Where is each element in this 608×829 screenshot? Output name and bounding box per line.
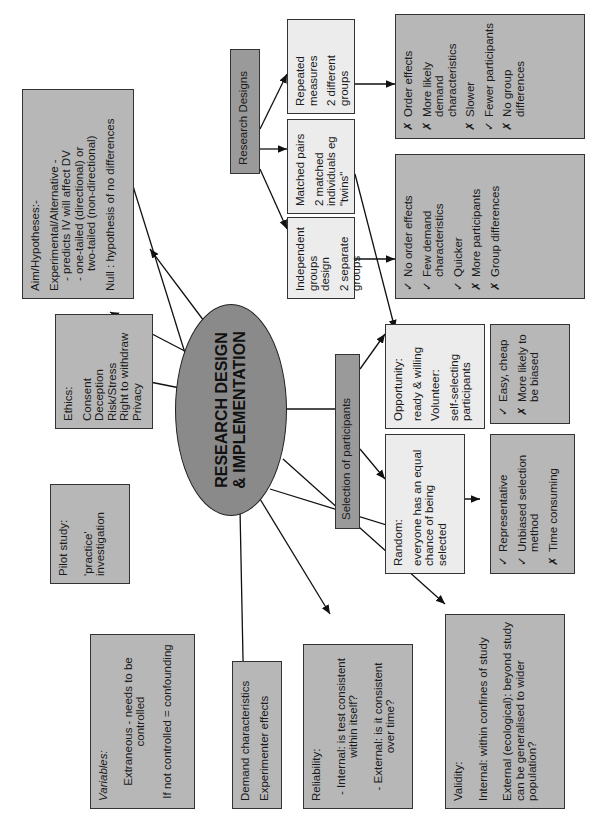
pilot-desc: 'practice' investigation <box>82 492 107 576</box>
eval-item: ✓No order effects <box>402 162 415 291</box>
variables-box: Variables: Extraneous - needs to be cont… <box>90 634 195 809</box>
matched-pairs-box: Matched pairs 2 matched individuals eg "… <box>287 119 355 214</box>
eval-text: Fewer participants <box>483 23 496 117</box>
random-label: Random: <box>392 442 405 566</box>
matched-title: Matched pairs <box>294 127 307 206</box>
pilot-study-box: Pilot study: 'practice' investigation <box>50 484 130 584</box>
check-icon: ✓ <box>402 277 415 291</box>
eval-item: ✓Quicker <box>452 162 465 291</box>
eval-text: More participants <box>470 189 483 277</box>
validity-external: External (ecological): beyond study can … <box>501 622 539 801</box>
eval-item: ✗Group differences <box>489 162 502 291</box>
check-icon: ✓ <box>497 402 510 416</box>
validity-title: Validity: <box>452 622 465 801</box>
cross-icon: ✗ <box>547 552 560 566</box>
cross-icon: ✗ <box>421 117 459 131</box>
cross-icon: ✗ <box>516 402 541 416</box>
aim-line3: two-tailed (non-directional) <box>85 97 98 291</box>
variables-confounding: If not controlled = confounding <box>161 642 174 801</box>
ethics-item: Deception <box>93 322 106 421</box>
random-box: Random: everyone has an equal chance of … <box>385 434 465 574</box>
reliability-external: - External: is it consistent over time? <box>372 652 397 801</box>
reliability-box: Reliability: - Internal: is test consist… <box>303 644 413 809</box>
aim-null: Null : hypothesis of no differences <box>104 97 117 291</box>
eval-item: ✗Time consuming <box>547 442 560 566</box>
demand-box: Demand characteristics Experimenter effe… <box>232 661 282 809</box>
eval-text: Group differences <box>489 186 502 277</box>
independent-evaluation-box: ✓No order effects ✓Few demand characteri… <box>395 154 585 299</box>
eval-text: Slower <box>464 82 477 117</box>
repeated-evaluation-box: ✗Order effects ✗More likely demand chara… <box>395 14 585 139</box>
reliability-internal: - Internal: is test consistent within it… <box>335 652 360 801</box>
opportunity-evaluation-box: ✓Easy, cheap ✗More likely to be biased <box>490 324 570 424</box>
eval-text: Quicker <box>452 237 465 277</box>
eval-item: ✗Order effects <box>402 22 415 131</box>
ethics-item: Privacy <box>131 322 144 421</box>
opportunity-volunteer-box: Opportunity: ready & willing Volunteer: … <box>385 324 485 429</box>
eval-item: ✓Fewer participants <box>483 22 496 131</box>
aim-hypotheses-box: Aim/Hypotheses:- Experimental/Alternativ… <box>22 89 134 299</box>
demand-line2: Experimenter effects <box>258 669 271 801</box>
eval-text: Representative <box>497 475 510 552</box>
selection-title: Selection of participants <box>340 398 352 520</box>
eval-item: ✗More likely demand characteristics <box>421 22 459 131</box>
aim-line1: - predicts IV will affect DV <box>60 97 73 291</box>
eval-item: ✓Representative <box>497 442 510 566</box>
research-designs-box: Research Designs <box>230 49 260 174</box>
cross-icon: ✗ <box>489 277 502 291</box>
eval-text: More likely to be biased <box>516 332 541 402</box>
ethics-item: Right to withdraw <box>118 322 131 421</box>
cross-icon: ✗ <box>501 117 526 131</box>
eval-text: Order effects <box>402 51 415 117</box>
validity-box: Validity: Internal: within confines of s… <box>445 614 565 809</box>
cross-icon: ✗ <box>464 117 477 131</box>
eval-text: More likely demand characteristics <box>421 22 459 117</box>
independent-title: Independent groups design <box>294 225 332 291</box>
check-icon: ✓ <box>497 552 510 566</box>
ethics-title: Ethics: <box>62 322 75 421</box>
volunteer-label: Volunteer: <box>429 332 442 421</box>
demand-line1: Demand characteristics <box>239 669 252 801</box>
volunteer-desc: self-selecting participants <box>448 332 473 421</box>
cross-icon: ✗ <box>402 117 415 131</box>
check-icon: ✓ <box>516 552 541 566</box>
validity-internal: Internal: within confines of study <box>477 622 490 801</box>
eval-item: ✗More likely to be biased <box>516 332 541 416</box>
ethics-item: Consent <box>81 322 94 421</box>
eval-item: ✗No group differences <box>501 22 526 131</box>
random-desc: everyone has an equal chance of being se… <box>411 442 449 566</box>
ethics-item: Risk/Stress <box>106 322 119 421</box>
repeated-title: Repeated measures <box>294 27 319 106</box>
cross-icon: ✗ <box>470 277 483 291</box>
eval-item: ✓Easy, cheap <box>497 332 510 416</box>
eval-text: Unbiased selection method <box>516 442 541 552</box>
eval-item: ✓Unbiased selection method <box>516 442 541 566</box>
matched-desc: 2 matched individuals eg "twins" <box>313 127 351 206</box>
repeated-desc: 2 different groups <box>325 27 350 106</box>
variables-title: Variables: <box>97 642 110 801</box>
central-topic-line2: & IMPLEMENTATION <box>231 331 249 489</box>
independent-desc: 2 separate groups <box>338 225 363 291</box>
eval-item: ✗More participants <box>470 162 483 291</box>
check-icon: ✓ <box>483 117 496 131</box>
eval-item: ✗Slower <box>464 22 477 131</box>
aim-line2: - one-tailed (directional) or <box>73 97 86 291</box>
eval-text: Time consuming <box>547 468 560 552</box>
central-topic: RESEARCH DESIGN & IMPLEMENTATION <box>175 304 287 516</box>
check-icon: ✓ <box>421 277 446 291</box>
independent-groups-box: Independent groups design 2 separate gro… <box>287 217 355 299</box>
eval-text: No order effects <box>402 195 415 277</box>
repeated-measures-box: Repeated measures 2 different groups <box>287 19 355 114</box>
random-evaluation-box: ✓Representative ✓Unbiased selection meth… <box>490 434 575 574</box>
reliability-title: Reliability: <box>310 652 323 801</box>
eval-text: No group differences <box>501 22 526 117</box>
opportunity-desc: ready & willing <box>411 332 424 421</box>
eval-text: Easy, cheap <box>497 340 510 402</box>
eval-item: ✓Few demand characteristics <box>421 162 446 291</box>
selection-box: Selection of participants <box>335 354 360 529</box>
aim-title: Aim/Hypotheses:- <box>29 97 42 291</box>
check-icon: ✓ <box>452 277 465 291</box>
aim-experimental: Experimental/Alternative - <box>48 97 61 291</box>
variables-extraneous: Extraneous - needs to be controlled <box>122 642 147 801</box>
pilot-title: Pilot study: <box>57 492 70 576</box>
